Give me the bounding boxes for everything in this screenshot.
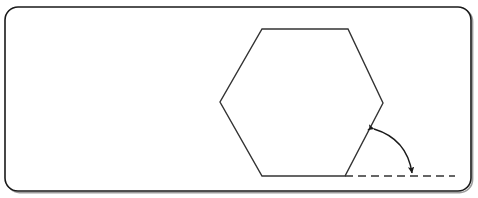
figure-root: Regular hexagon with exterior angle arc bbox=[0, 0, 478, 198]
frame-border bbox=[5, 7, 471, 191]
rounded-rectangle-frame bbox=[5, 7, 473, 193]
diagram-canvas bbox=[0, 0, 478, 198]
